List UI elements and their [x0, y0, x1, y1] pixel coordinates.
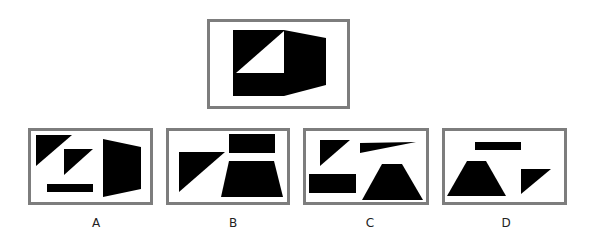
option-b-box[interactable]	[166, 128, 290, 205]
option-d-label[interactable]: D	[496, 215, 516, 231]
option-b-label[interactable]: B	[223, 215, 243, 231]
option-d-box[interactable]	[442, 128, 567, 205]
option-a-label[interactable]: A	[86, 215, 106, 231]
option-c-label[interactable]: C	[360, 215, 380, 231]
question-figure-box	[207, 19, 350, 109]
option-a-box[interactable]	[28, 128, 153, 205]
option-c-box[interactable]	[303, 128, 429, 205]
